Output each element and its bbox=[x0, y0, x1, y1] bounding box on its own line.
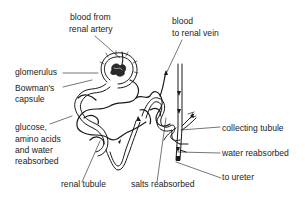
label-blood-from-artery-line2: renal artery bbox=[69, 24, 112, 35]
label-to-ureter: to ureter bbox=[222, 172, 254, 183]
label-collecting-tubule: collecting tubule bbox=[222, 123, 284, 134]
label-water-reabsorbed: water reabsorbed bbox=[222, 148, 289, 159]
bowmans-capsule-shape bbox=[100, 51, 138, 88]
nephron-diagram: blood from renal artery blood to renal v… bbox=[0, 0, 305, 202]
label-glucose-line3: and water bbox=[15, 145, 53, 156]
label-salts-reabsorbed: salts reabsorbed bbox=[131, 179, 195, 190]
label-blood-to-vein-line1: blood bbox=[172, 16, 193, 27]
label-glucose-line4: reabsorbed bbox=[15, 156, 58, 167]
collecting-duct bbox=[164, 64, 196, 161]
label-glucose-line2: amino acids bbox=[15, 134, 61, 145]
distal-tubule bbox=[142, 98, 180, 144]
label-renal-tubule: renal tubule bbox=[61, 179, 106, 190]
label-glomerulus: glomerulus bbox=[15, 67, 57, 78]
label-blood-from-artery-line1: blood from bbox=[70, 12, 111, 23]
proximal-tubule bbox=[75, 84, 110, 156]
label-blood-to-vein-line2: to renal vein bbox=[172, 28, 219, 39]
nephron-drawing bbox=[0, 0, 305, 202]
label-bowmans-line1: Bowman's bbox=[15, 83, 54, 94]
loop-of-henle bbox=[106, 116, 141, 170]
capillary-network-left bbox=[77, 80, 139, 144]
label-glucose-line1: glucose, bbox=[15, 122, 47, 133]
label-bowmans-line2: capsule bbox=[15, 94, 45, 105]
